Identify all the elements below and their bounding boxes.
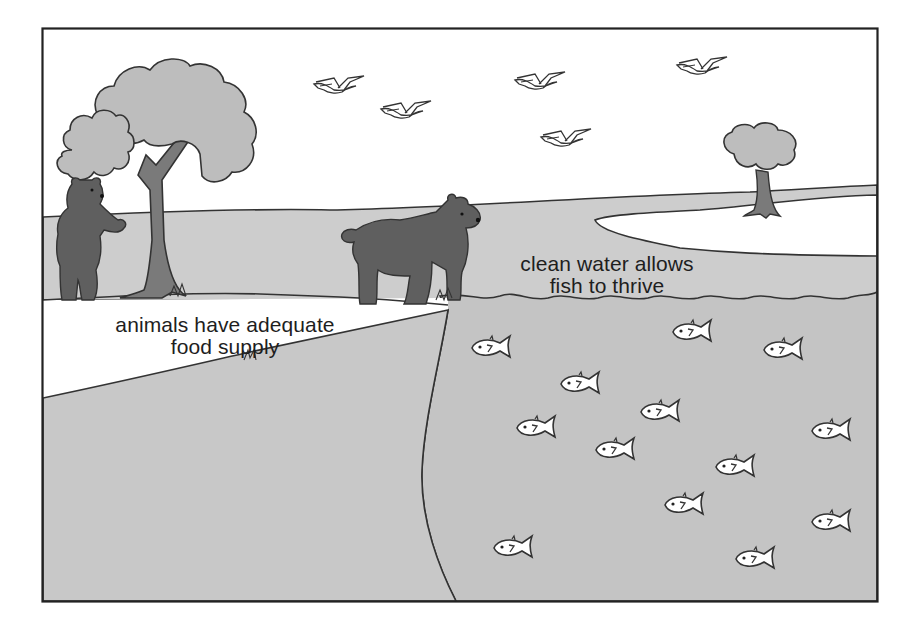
food-supply-label-line1: animals have adequate — [80, 314, 370, 336]
food-supply-label: animals have adequate food supply — [80, 314, 370, 358]
clean-water-label-line2: fish to thrive — [492, 275, 722, 297]
clean-water-label: clean water allows fish to thrive — [492, 253, 722, 297]
clean-water-label-line1: clean water allows — [492, 253, 722, 275]
food-supply-label-line2: food supply — [80, 336, 370, 358]
